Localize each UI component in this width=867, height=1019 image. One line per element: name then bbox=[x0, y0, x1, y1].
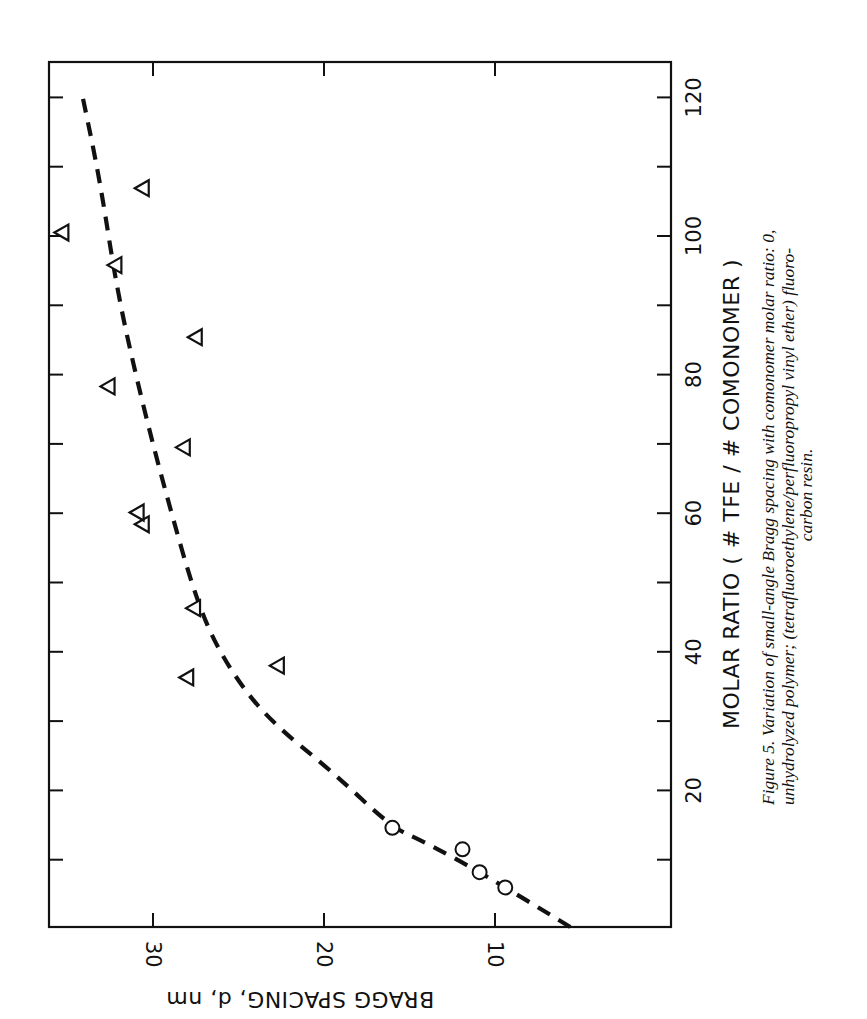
caption-line-2: unhydrolyzed polymer; (tetrafluoroethyle… bbox=[778, 248, 798, 805]
y-tick-label: 10 bbox=[483, 941, 507, 968]
x-tick-label: 120 bbox=[682, 77, 706, 117]
triangle-marker bbox=[54, 225, 68, 241]
circle-marker bbox=[456, 842, 470, 856]
circle-marker bbox=[498, 880, 512, 894]
x-axis-title: MOLAR RATIO ( # TFE / # COMONOMER ) bbox=[719, 259, 744, 729]
caption-line-3: carbon resin. bbox=[796, 449, 816, 542]
x-tick-label: 40 bbox=[682, 638, 706, 665]
circle-marker bbox=[473, 865, 487, 879]
y-axis-title: BRAGG SPACING, d, nm bbox=[166, 987, 434, 1012]
triangle-marker bbox=[101, 378, 115, 394]
triangle-marker bbox=[135, 180, 149, 196]
circle-marker bbox=[385, 821, 399, 835]
x-tick-label: 80 bbox=[682, 361, 706, 388]
fit-curve bbox=[81, 90, 570, 927]
triangle-marker bbox=[270, 658, 284, 674]
figure: 20406080100120102030 BRAGG SPACING, d, n… bbox=[0, 0, 867, 1019]
caption-line-1: Figure 5. Variation of small-angle Bragg… bbox=[758, 230, 778, 806]
y-tick-label: 30 bbox=[141, 941, 165, 968]
triangle-marker bbox=[188, 329, 202, 345]
triangle-marker bbox=[186, 600, 200, 616]
x-tick-label: 60 bbox=[682, 500, 706, 527]
data-markers bbox=[54, 180, 512, 894]
triangle-marker bbox=[179, 669, 193, 685]
x-tick-label: 20 bbox=[682, 777, 706, 804]
y-tick-label: 20 bbox=[312, 941, 336, 968]
triangle-marker bbox=[130, 505, 144, 521]
triangle-marker bbox=[176, 439, 190, 455]
figure-caption: Figure 5. Variation of small-angle Bragg… bbox=[758, 230, 816, 806]
x-tick-label: 100 bbox=[682, 216, 706, 256]
axis-tick-labels: 20406080100120102030 bbox=[141, 77, 706, 967]
